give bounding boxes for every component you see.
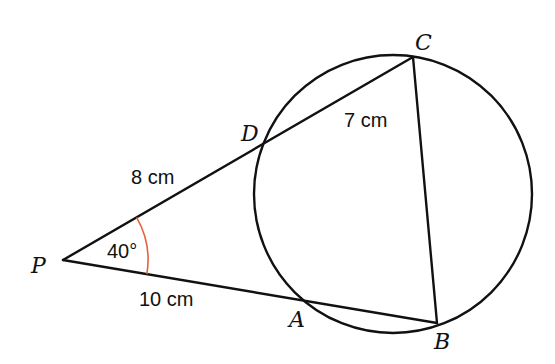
circle bbox=[254, 55, 532, 333]
angle-arc bbox=[137, 217, 148, 274]
label-length-pa: 10 cm bbox=[139, 288, 193, 310]
label-point-a: A bbox=[287, 307, 305, 332]
label-point-c: C bbox=[415, 30, 432, 55]
label-point-b: B bbox=[433, 329, 450, 354]
label-angle-p: 40° bbox=[107, 240, 137, 262]
geometry-diagram: P C D A B 8 cm 7 cm 10 cm 40° bbox=[0, 0, 555, 364]
label-length-dc: 7 cm bbox=[344, 109, 387, 131]
chord-cb bbox=[413, 57, 437, 323]
segment-pc bbox=[63, 57, 413, 260]
segment-pb bbox=[63, 260, 437, 323]
label-length-pd: 8 cm bbox=[131, 166, 174, 188]
label-point-p: P bbox=[30, 253, 47, 278]
label-point-d: D bbox=[240, 121, 259, 146]
